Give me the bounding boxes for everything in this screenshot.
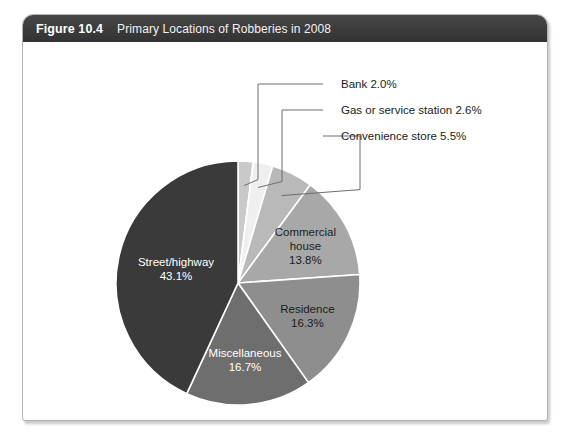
figure-number-label: Figure 10.4: [36, 22, 103, 36]
pie-callout-labels-group: Bank 2.0%Gas or service station 2.6%Conv…: [341, 78, 482, 142]
callout-label-convenience-store: Convenience store 5.5%: [341, 130, 466, 142]
pie-chart-plot-area: Commercialhouse13.8%Residence16.3%Miscel…: [23, 42, 547, 422]
figure-header-bar: Figure 10.4 Primary Locations of Robberi…: [23, 15, 547, 42]
callout-label-gas-or-service-station: Gas or service station 2.6%: [341, 104, 482, 116]
figure-card: Figure 10.4 Primary Locations of Robberi…: [22, 14, 548, 421]
figure-title-label: Primary Locations of Robberies in 2008: [117, 22, 331, 36]
callout-label-bank: Bank 2.0%: [341, 78, 397, 90]
pie-chart: Commercialhouse13.8%Residence16.3%Miscel…: [23, 42, 549, 422]
